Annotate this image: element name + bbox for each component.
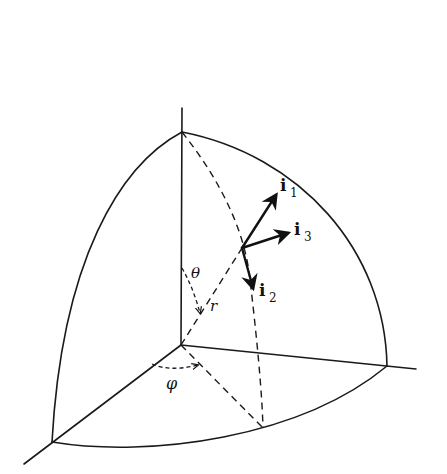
theta-label: θ: [191, 264, 200, 282]
i3-subscript: 3: [304, 230, 312, 244]
i1-base: i: [280, 175, 287, 195]
axes: [24, 108, 416, 464]
y-axis: [181, 345, 416, 369]
i1-subscript: 1: [290, 186, 298, 200]
phi-label: φ: [166, 374, 178, 393]
arc-xz-plane: [52, 132, 182, 442]
arc-xy-plane-equator: [52, 366, 387, 447]
z-axis: [181, 108, 182, 345]
i2-subscript: 2: [269, 291, 277, 305]
i3-base: i: [294, 219, 301, 239]
r-label: r: [210, 297, 218, 315]
vector-i3-label: i 3: [294, 219, 312, 244]
projection-line: [181, 345, 263, 428]
i2-base: i: [259, 280, 266, 300]
vector-i2-arrow: [242, 248, 253, 288]
unit-vectors: [242, 195, 288, 288]
phi-arc: [152, 364, 198, 368]
spherical-coordinates-diagram: θ r φ i 1 i 3 i 2: [0, 0, 447, 474]
vector-i2-label: i 2: [259, 280, 277, 305]
sphere-octant-outline: [52, 132, 387, 447]
vector-i1-arrow: [242, 195, 276, 248]
arc-yz-plane: [182, 132, 387, 366]
